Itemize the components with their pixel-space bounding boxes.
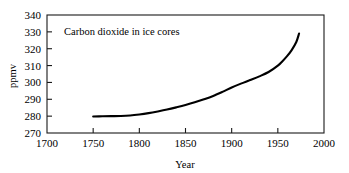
x-tick-label: 1950 bbox=[267, 137, 290, 149]
chart-annotation-label: Carbon dioxide in ice cores bbox=[64, 26, 179, 37]
x-tick-label: 1700 bbox=[36, 137, 59, 149]
y-tick-label: 300 bbox=[25, 76, 42, 88]
x-tick-label: 1850 bbox=[175, 137, 198, 149]
x-axis-title: Year bbox=[175, 159, 195, 170]
x-tick-label: 2000 bbox=[313, 137, 336, 149]
y-tick-label: 330 bbox=[25, 26, 42, 38]
y-tick-label: 340 bbox=[25, 9, 42, 21]
x-tick-label: 1750 bbox=[82, 137, 105, 149]
x-tick-label: 1900 bbox=[221, 137, 244, 149]
y-tick-label: 310 bbox=[25, 60, 42, 72]
y-tick-label: 320 bbox=[25, 43, 42, 55]
x-tick-label: 1800 bbox=[128, 137, 151, 149]
y-axis-title: ppmv bbox=[7, 63, 18, 88]
co2-ice-core-line-chart: 270280290300310320330340 170017501800185… bbox=[0, 0, 349, 173]
chart-figure: 270280290300310320330340 170017501800185… bbox=[0, 0, 349, 173]
y-tick-label: 280 bbox=[25, 110, 42, 122]
y-tick-label: 290 bbox=[25, 93, 42, 105]
